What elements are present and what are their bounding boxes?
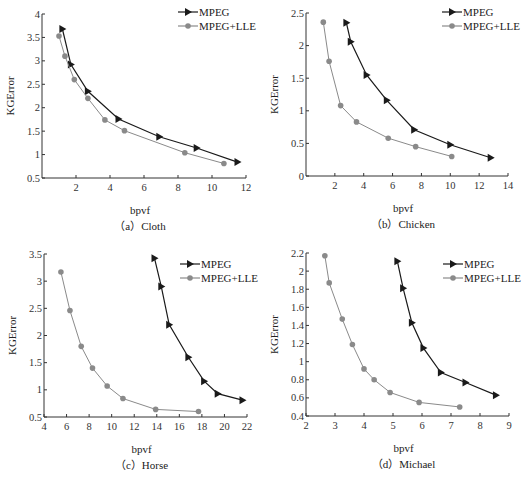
x-tick-label: 18 — [197, 421, 208, 432]
y-tick-label: 1.5 — [27, 126, 40, 137]
triangle-marker — [166, 321, 173, 329]
circle-marker — [182, 150, 188, 156]
series-mpeg — [59, 25, 241, 166]
x-axis-title: bpvf — [393, 442, 414, 454]
y-tick-label: 1.5 — [291, 73, 304, 84]
y-tick-label: 0.6 — [291, 392, 304, 403]
triangle-marker — [194, 144, 201, 152]
circle-marker — [339, 316, 345, 322]
legend-circle-icon — [185, 23, 191, 29]
y-axis-title: KGError — [268, 75, 280, 114]
x-tick-label: 16 — [174, 421, 185, 432]
legend-triangle-icon — [450, 260, 457, 268]
x-tick-label: 14 — [503, 180, 514, 191]
triangle-marker — [348, 38, 355, 46]
legend-circle-icon — [449, 23, 455, 29]
triangle-marker — [116, 115, 123, 123]
x-tick-label: 10 — [207, 182, 218, 193]
circle-marker — [56, 33, 62, 39]
x-tick-label: 8 — [175, 182, 180, 193]
subplot-caption: （d）Michael — [372, 458, 436, 470]
circle-marker — [449, 154, 455, 160]
x-tick-label: 4 — [107, 182, 113, 193]
circle-marker — [78, 344, 84, 350]
series-line — [325, 256, 460, 407]
triangle-marker — [409, 319, 416, 327]
circle-marker — [326, 280, 332, 286]
chart-c: 0.511.522.533.546810121416182022bpvfKGEr… — [6, 249, 258, 472]
legend-label: MPEG — [199, 6, 230, 18]
y-tick-label: 1.2 — [291, 338, 304, 349]
chart-b: 00.511.522.52468101214bpvfKGError（b）Chic… — [268, 6, 520, 230]
circle-marker — [102, 117, 108, 123]
y-tick-label: 1 — [299, 356, 304, 367]
x-tick-label: 12 — [474, 180, 485, 191]
circle-marker — [196, 409, 202, 415]
series-line — [59, 36, 224, 163]
circle-marker — [385, 135, 391, 141]
series-mpeg-lle — [56, 33, 227, 166]
x-tick-label: 2 — [303, 420, 308, 431]
x-tick-label: 12 — [129, 421, 140, 432]
subplot-caption: （a）Cloth — [114, 220, 166, 232]
circle-marker — [62, 53, 68, 59]
x-tick-label: 2 — [73, 182, 78, 193]
legend-label: MPEG+LLE — [201, 272, 258, 284]
series-mpeg-lle — [322, 253, 462, 410]
legend: MPEGMPEG+LLE — [442, 6, 520, 32]
legend-label: MPEG — [463, 6, 494, 18]
y-tick-label: 2.5 — [291, 8, 304, 19]
series-mpeg — [343, 19, 494, 162]
x-tick-label: 2 — [332, 180, 337, 191]
y-tick-label: 1 — [35, 149, 40, 160]
circle-marker — [354, 119, 360, 125]
y-tick-label: 2 — [299, 266, 304, 277]
y-tick-label: 1 — [299, 105, 304, 116]
y-tick-label: 2 — [35, 102, 40, 113]
triangle-marker — [420, 344, 427, 352]
legend-circle-icon — [450, 275, 456, 281]
circle-marker — [322, 253, 328, 259]
circle-marker — [413, 144, 419, 150]
chart-d: 0.40.60.811.21.41.61.822.223456789bpvfKG… — [268, 248, 521, 471]
x-tick-label: 10 — [106, 421, 117, 432]
legend-circle-icon — [187, 275, 193, 281]
legend: MPEGMPEG+LLE — [178, 6, 256, 32]
y-tick-label: 1 — [37, 384, 42, 395]
subplot-caption: （c）Horse — [115, 459, 168, 471]
y-tick-label: 0.5 — [27, 173, 40, 184]
x-tick-label: 14 — [152, 421, 163, 432]
x-tick-label: 3 — [332, 420, 337, 431]
x-axis-title: bpvf — [393, 202, 414, 214]
y-tick-label: 2.5 — [29, 303, 42, 314]
triangle-marker — [447, 141, 454, 149]
y-tick-label: 3.5 — [27, 32, 40, 43]
legend: MPEGMPEG+LLE — [443, 258, 521, 284]
y-tick-label: 1.4 — [291, 320, 305, 331]
legend-label: MPEG — [464, 258, 495, 270]
x-tick-label: 4 — [361, 180, 367, 191]
x-tick-label: 8 — [419, 180, 424, 191]
y-tick-label: 4 — [35, 9, 41, 20]
circle-marker — [387, 390, 393, 396]
circle-marker — [457, 404, 463, 410]
y-tick-label: 1.5 — [29, 357, 42, 368]
y-axis-title: KGError — [6, 316, 18, 355]
circle-marker — [85, 96, 91, 102]
y-axis-title: KGError — [268, 315, 280, 354]
subplot-caption: （b）Chicken — [371, 218, 436, 230]
circle-marker — [350, 342, 356, 348]
circle-marker — [326, 58, 332, 64]
legend-triangle-icon — [187, 260, 194, 268]
circle-marker — [321, 19, 327, 25]
circle-marker — [104, 383, 110, 389]
triangle-marker — [235, 158, 242, 166]
circle-marker — [58, 269, 64, 275]
legend-triangle-icon — [185, 8, 192, 16]
circle-marker — [361, 366, 367, 372]
y-tick-label: 3 — [37, 276, 42, 287]
triangle-marker — [185, 353, 192, 361]
x-tick-label: 8 — [86, 421, 91, 432]
x-tick-label: 6 — [419, 420, 424, 431]
y-tick-label: 2.2 — [291, 248, 304, 259]
